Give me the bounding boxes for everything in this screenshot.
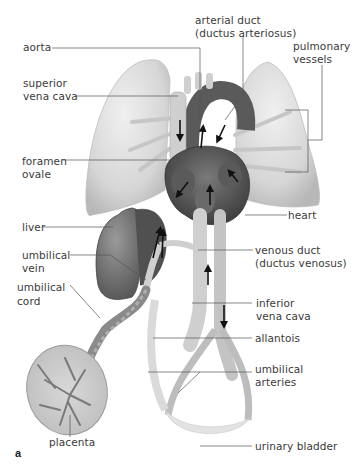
- inferior-vena-cava: [190, 215, 200, 345]
- label-umbilical-vein-line2: vein: [22, 262, 45, 274]
- label-liver: liver: [22, 221, 45, 233]
- panel-letter: a: [15, 447, 21, 459]
- label-pulmonary-vessels-line2: vessels: [293, 53, 332, 65]
- placenta-disc: [17, 336, 118, 444]
- label-foramen-ovale-line1: foramen: [22, 155, 67, 167]
- label-inferior-vena-cava-line2: vena cava: [256, 310, 311, 322]
- anatomy-illustration: [0, 0, 358, 467]
- label-superior-vena-cava-line1: superior: [23, 77, 67, 89]
- label-umbilical-arteries-line2: arteries: [255, 376, 296, 388]
- label-umbilical-vein-line1: umbilical: [22, 249, 70, 261]
- label-arterial-duct-line1: arterial duct: [195, 14, 261, 26]
- label-umbilical-arteries-line1: umbilical: [255, 363, 303, 375]
- label-inferior-vena-cava-line1: inferior: [256, 297, 295, 309]
- label-placenta: placenta: [49, 436, 95, 448]
- label-arterial-duct-line2: (ductus arteriosus): [195, 27, 296, 39]
- label-urinary-bladder: urinary bladder: [255, 440, 337, 452]
- label-aorta: aorta: [23, 41, 51, 53]
- label-umbilical-cord-line2: cord: [17, 295, 40, 307]
- label-venous-duct-line2: (ductus venosus): [255, 257, 347, 269]
- fetal-circulation-diagram: aorta superior vena cava arterial duct (…: [0, 0, 358, 467]
- label-allantois: allantois: [255, 332, 300, 344]
- allantois-stalk: [151, 300, 165, 410]
- label-umbilical-cord-line1: umbilical: [17, 281, 65, 293]
- label-venous-duct-line1: venous duct: [255, 244, 321, 256]
- urinary-bladder: [165, 410, 250, 434]
- label-heart: heart: [288, 209, 316, 221]
- label-foramen-ovale-line2: ovale: [22, 168, 51, 180]
- label-pulmonary-vessels-line1: pulmonary: [293, 40, 350, 52]
- label-superior-vena-cava-line2: vena cava: [23, 90, 78, 102]
